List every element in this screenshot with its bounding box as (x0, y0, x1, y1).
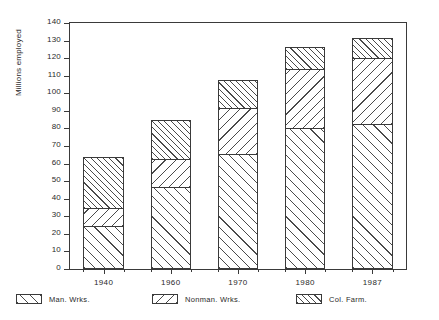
x-tick-mark (171, 269, 172, 274)
y-tick-mark (64, 164, 70, 165)
x-tick-label: 1980 (295, 278, 314, 287)
bar-segment (151, 159, 191, 188)
x-tick-mark (305, 269, 306, 274)
y-tick-label: 30 (52, 210, 61, 219)
plot-inner: 0102030405060708090100110120130140194019… (70, 23, 406, 269)
bar-segment (218, 154, 258, 269)
y-tick-mark (64, 111, 70, 112)
y-axis-title: Millions employed (14, 0, 23, 96)
y-tick-label: 20 (52, 228, 61, 237)
x-minor-tick-mark (151, 269, 152, 272)
bar-group (83, 23, 123, 269)
legend-item: Nonman. Wrks. (152, 292, 240, 306)
y-tick-label: 90 (52, 105, 61, 114)
x-minor-tick-mark (325, 269, 326, 272)
legend-item: Man. Wrks. (16, 292, 90, 306)
y-tick-label: 10 (52, 245, 61, 254)
bar-segment (352, 38, 392, 59)
y-tick-mark (64, 234, 70, 235)
legend-item: Col. Farm. (296, 292, 367, 306)
x-tick-label: 1940 (94, 278, 113, 287)
y-tick-label: 120 (47, 52, 61, 61)
legend-label: Col. Farm. (329, 295, 367, 304)
y-tick-mark (64, 216, 70, 217)
y-tick-label: 0 (56, 263, 61, 272)
x-tick-label: 1987 (363, 278, 382, 287)
y-tick-label: 70 (52, 140, 61, 149)
bar-segment (285, 128, 325, 269)
x-minor-tick-mark (285, 269, 286, 272)
y-tick-mark (64, 76, 70, 77)
x-minor-tick-mark (191, 269, 192, 272)
y-tick-label: 40 (52, 193, 61, 202)
y-tick-mark (64, 251, 70, 252)
bar-segment (83, 208, 123, 227)
bar-segment (352, 124, 392, 269)
y-tick-mark (64, 41, 70, 42)
y-tick-label: 140 (47, 17, 61, 26)
bar-segment (218, 108, 258, 155)
y-tick-mark (64, 269, 70, 270)
y-tick-mark (64, 58, 70, 59)
legend-label: Nonman. Wrks. (185, 295, 240, 304)
x-tick-mark (372, 269, 373, 274)
bar-segment (151, 187, 191, 269)
bar-group (218, 23, 258, 269)
x-tick-label: 1960 (161, 278, 180, 287)
y-tick-mark (64, 146, 70, 147)
x-minor-tick-mark (124, 269, 125, 272)
y-tick-mark (64, 199, 70, 200)
x-tick-mark (104, 269, 105, 274)
bar-segment (151, 120, 191, 160)
y-tick-label: 80 (52, 122, 61, 131)
bar-segment (83, 157, 123, 209)
bar-group (285, 23, 325, 269)
x-minor-tick-mark (393, 269, 394, 272)
legend-label: Man. Wrks. (49, 295, 90, 304)
legend-swatch (152, 294, 178, 304)
x-minor-tick-mark (83, 269, 84, 272)
y-tick-label: 130 (47, 35, 61, 44)
chart-root: Millions employed 0102030405060708090100… (0, 0, 439, 320)
bar-segment (285, 47, 325, 71)
bar-segment (285, 69, 325, 129)
y-tick-label: 110 (48, 70, 61, 79)
x-tick-label: 1970 (228, 278, 247, 287)
bar-segment (218, 80, 258, 109)
bar-segment (83, 226, 123, 269)
chart-legend: Man. Wrks.Nonman. Wrks.Col. Farm. (0, 292, 439, 312)
y-tick-mark (64, 93, 70, 94)
legend-swatch (296, 294, 322, 304)
x-minor-tick-mark (258, 269, 259, 272)
plot-area: 0102030405060708090100110120130140194019… (69, 22, 407, 270)
bar-group (151, 23, 191, 269)
bar-group (352, 23, 392, 269)
y-tick-mark (64, 128, 70, 129)
legend-swatch (16, 294, 42, 304)
y-tick-label: 50 (52, 175, 61, 184)
y-tick-label: 100 (47, 87, 61, 96)
y-tick-mark (64, 181, 70, 182)
x-minor-tick-mark (218, 269, 219, 272)
y-tick-label: 60 (52, 158, 61, 167)
x-tick-mark (238, 269, 239, 274)
y-tick-mark (64, 23, 70, 24)
bar-segment (352, 58, 392, 125)
x-minor-tick-mark (352, 269, 353, 272)
